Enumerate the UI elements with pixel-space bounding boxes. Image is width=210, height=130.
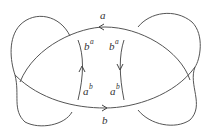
top-arc: [20, 27, 190, 82]
label-a: a: [100, 9, 106, 21]
diagram-canvas: a b b a a b b a a b: [0, 0, 210, 130]
label-left-top-sup: a: [90, 37, 94, 46]
right-outer-loop: [138, 13, 200, 125]
bottom-arc: [15, 67, 195, 108]
label-right-top-sup: a: [115, 37, 119, 46]
label-left-bottom-sup: b: [89, 82, 93, 91]
label-right-bottom-sup: b: [116, 82, 120, 91]
label-b: b: [102, 114, 108, 126]
left-outer-loop: [11, 16, 72, 126]
right-inner-arc: [120, 40, 124, 100]
diagram-svg: a b b a a b b a a b: [0, 0, 210, 130]
